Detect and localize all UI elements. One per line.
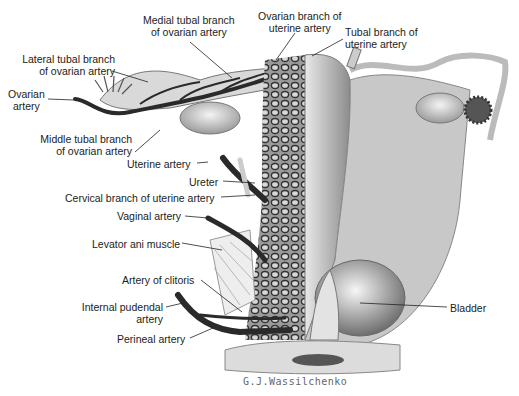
label-medial-tubal-branch: Medial tubal branch of ovarian artery <box>143 14 235 38</box>
label-line: Tubal branch of <box>345 26 418 38</box>
label-bladder: Bladder <box>450 302 486 314</box>
label-perineal-artery: Perineal artery <box>117 333 185 345</box>
artist-signature: G.J.Wassilchenko <box>243 376 347 387</box>
label-cervical-branch: Cervical branch of uterine artery <box>65 192 214 204</box>
label-tubal-branch-uterine: Tubal branch of uterine artery <box>345 26 418 50</box>
label-line: uterine artery <box>258 22 341 34</box>
label-artery-of-clitoris: Artery of clitoris <box>122 274 194 286</box>
label-middle-tubal-branch: Middle tubal branch of ovarian artery <box>30 133 132 157</box>
label-internal-pudendal: Internal pudendal artery <box>60 301 163 325</box>
label-line: Lateral tubal branch <box>15 53 115 65</box>
label-line: Ovarian branch of <box>258 10 341 22</box>
label-ovarian-artery: Ovarian artery <box>8 88 45 112</box>
label-lateral-tubal-branch: Lateral tubal branch of ovarian artery <box>15 53 115 77</box>
label-line: artery <box>8 100 45 112</box>
label-ureter: Ureter <box>189 176 218 188</box>
label-line: Medial tubal branch <box>143 14 235 26</box>
label-vaginal-artery: Vaginal artery <box>117 210 181 222</box>
label-line: uterine artery <box>345 38 418 50</box>
label-line: Internal pudendal <box>60 301 163 313</box>
label-levator-ani: Levator ani muscle <box>92 238 180 250</box>
label-ovarian-branch-uterine: Ovarian branch of uterine artery <box>258 10 341 34</box>
label-line: Ovarian <box>8 88 45 100</box>
label-line: of ovarian artery <box>30 145 132 157</box>
label-line: Middle tubal branch <box>30 133 132 145</box>
label-line: of ovarian artery <box>143 26 235 38</box>
label-uterine-artery: Uterine artery <box>127 158 191 170</box>
label-line: of ovarian artery <box>15 65 115 77</box>
label-line: artery <box>60 313 163 325</box>
